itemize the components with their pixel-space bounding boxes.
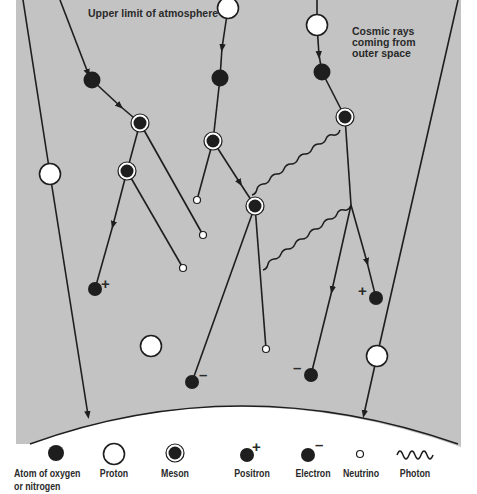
legend-atom-icon [48,445,64,461]
atom-icon [314,64,331,81]
legend-label-meson-text: Meson [149,467,202,480]
legend-label-photon-text: Photon [390,467,439,480]
legend-photon-icon [397,451,433,459]
legend-label-positron: Positron [226,467,279,480]
legend-label-meson: Meson [149,467,202,480]
cosmic-ray-diagram: Upper limit of atmosphere Cosmic rays co… [0,0,477,494]
legend-label-electron-text: Electron [287,467,340,480]
meson-icon [336,108,354,126]
meson-icon [131,114,149,132]
legend-label-neutrino-text: Neutrino [336,467,385,480]
legend-label-photon: Photon [390,467,439,480]
legend-meson-icon [166,444,184,462]
svg-text:–: – [293,359,301,376]
meson-icon [246,197,264,215]
cosmic-rays-label: Cosmic rays coming from outer space [352,25,416,59]
proton-icon [307,15,328,36]
svg-text:–: – [199,366,207,383]
legend-label-proton-text: Proton [88,467,141,480]
legend: + – [48,436,433,465]
meson-icon [118,162,136,180]
legend-label-proton: Proton [88,467,141,480]
neutrino-icon [263,346,270,353]
atom-icon [84,72,101,89]
legend-electron-icon: – [301,436,323,462]
proton-icon [141,336,162,357]
proton-icon [40,164,61,185]
proton-icon [218,0,239,19]
svg-text:+: + [252,438,261,455]
legend-label-electron: Electron [287,467,340,480]
atom-icon [212,70,229,87]
svg-text:–: – [315,436,323,453]
upper-limit-label: Upper limit of atmosphere [88,7,218,19]
neutrino-icon [194,197,201,204]
svg-text:+: + [358,282,367,299]
svg-text:outer space: outer space [352,47,411,59]
legend-label-atom-line2: or nitrogen [14,480,102,493]
legend-proton-icon [104,444,125,465]
svg-text:+: + [101,275,110,292]
neutrino-icon [200,232,207,239]
legend-label-positron-text: Positron [226,467,279,480]
proton-icon [367,346,388,367]
neutrino-icon [180,265,187,272]
legend-neutrino-icon [357,451,364,458]
legend-label-neutrino: Neutrino [336,467,385,480]
meson-icon [204,132,222,150]
legend-positron-icon: + [240,438,261,462]
